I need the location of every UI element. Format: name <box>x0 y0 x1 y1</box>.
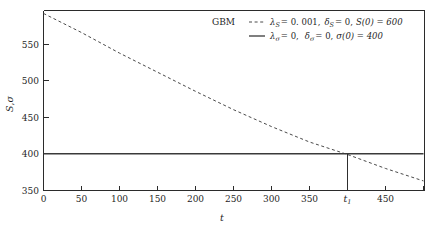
x-tick-label-100: 100 <box>111 194 128 204</box>
y-tick-label-350: 350 <box>22 186 39 196</box>
x-tick-label-250: 250 <box>225 194 242 204</box>
chart-figure: 550 500 450 400 350 0 50 100 150 200 <box>0 0 434 229</box>
legend-1-init: S(0) = 600 <box>356 17 403 27</box>
y-tick-label-550: 550 <box>22 40 39 50</box>
x-tick-label-0: 0 <box>41 194 47 204</box>
x-axis-title: t <box>220 212 224 223</box>
x-tick-label-350: 350 <box>301 194 318 204</box>
y-tick-label-400: 400 <box>22 149 39 159</box>
y-tick-labels: 550 500 450 400 350 <box>22 40 39 196</box>
legend-2-delta-sub: σ <box>310 35 315 43</box>
x-tick-label-50: 50 <box>76 194 88 204</box>
x-tick-label-150: 150 <box>149 194 166 204</box>
x-tick-labels: 0 50 100 150 200 250 300 350 t1 450 <box>41 193 395 206</box>
legend-1-lambda-sub: S <box>275 21 280 29</box>
x-tick-label-450: 450 <box>377 194 394 204</box>
legend-entry-1: λS= 0. 001,δS= 0,S(0) = 600 <box>269 17 403 29</box>
y-tick-label-500: 500 <box>22 76 39 86</box>
legend-entry-2: λσ= 0,δσ= 0,σ(0) = 400 <box>269 31 383 43</box>
x-tick-marks <box>44 186 424 191</box>
legend-2-lambda-eq: = 0, <box>281 31 299 41</box>
x-tick-label-t1: t1 <box>344 193 352 206</box>
y-axis-title: S,σ <box>4 95 15 112</box>
y-axis-title-group: S,σ <box>4 95 15 112</box>
x-tick-label-200: 200 <box>187 194 204 204</box>
legend-1-delta-sub: S <box>330 21 335 29</box>
t1-subscript: 1 <box>347 198 351 206</box>
legend-2-delta-eq: = 0, <box>315 31 333 41</box>
plot-canvas: 550 500 450 400 350 0 50 100 150 200 <box>0 0 434 229</box>
legend-title: GBM <box>212 17 235 27</box>
x-tick-label-300: 300 <box>263 194 280 204</box>
y-axis-title-sigma: σ <box>4 95 15 102</box>
legend: GBM λS= 0. 001,δS= 0,S(0) = 600 λσ= 0,δσ… <box>212 17 403 43</box>
y-tick-label-450: 450 <box>22 113 39 123</box>
legend-1-lambda-eq: = 0. 001, <box>281 17 321 27</box>
legend-1-delta-eq: = 0, <box>335 17 353 27</box>
legend-2-lambda-sub: σ <box>275 35 280 43</box>
y-tick-marks <box>44 45 49 191</box>
legend-2-init: σ(0) = 400 <box>336 31 383 41</box>
